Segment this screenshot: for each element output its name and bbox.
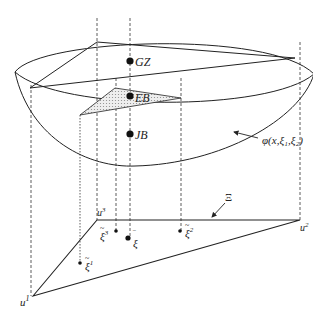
- point-xibar: [125, 235, 130, 240]
- domain-triangle: [33, 220, 300, 296]
- point-xi1: [78, 261, 82, 265]
- surface-rim-back: [15, 44, 313, 74]
- label-xi2-sup: 2: [190, 226, 194, 234]
- point-jb: [126, 130, 133, 137]
- label-jb: JB: [135, 128, 148, 142]
- point-eb: [126, 92, 133, 99]
- label-xi1-sup: 1: [90, 259, 94, 267]
- vertex-u3-sup: 3: [101, 206, 106, 214]
- domain-arrow: [212, 203, 225, 217]
- upper-triangle: [30, 42, 295, 88]
- accent-xi2: ~: [185, 221, 190, 230]
- point-xi2: [178, 229, 182, 233]
- shaded-triangle: [80, 88, 181, 115]
- vertex-u1: u1: [20, 294, 30, 308]
- point-gz: [126, 57, 133, 64]
- surface-bowl: [15, 72, 313, 166]
- vertex-u2: u2: [300, 221, 309, 233]
- point-xi3: [114, 229, 118, 233]
- accent-xibar: ‾: [132, 230, 136, 239]
- label-xi3-sup: 3: [104, 229, 109, 237]
- scenario-points: ξ1 ~ ξ3 ~ ξ ‾ ξ2 ~: [78, 221, 194, 273]
- label-eb: EB: [134, 91, 150, 105]
- vertex-u2-sup: 2: [305, 221, 309, 229]
- accent-xi3: ~: [100, 224, 105, 233]
- label-gz: GZ: [135, 55, 151, 69]
- stochastic-program-diagram: GZ EB JB φ(x,ξ₁,ξ₂) Ξ u1 u3 u2 ξ1 ~ ξ3 ~…: [0, 0, 313, 315]
- vertex-u3: u3: [97, 206, 106, 218]
- vertex-labels: u1 u3 u2: [20, 206, 309, 308]
- function-surface: [15, 44, 313, 166]
- vertex-u1-sup: 1: [26, 294, 30, 303]
- domain-label: Ξ: [225, 191, 232, 203]
- accent-xi1: ~: [85, 254, 90, 263]
- function-label: φ(x,ξ₁,ξ₂): [262, 134, 303, 147]
